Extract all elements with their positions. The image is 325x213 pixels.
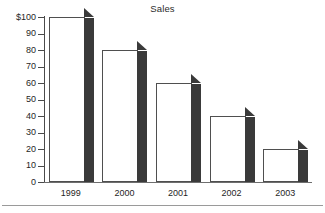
bottom-divider (2, 205, 323, 206)
bar-side-face (245, 117, 255, 182)
bar-front-face (210, 116, 246, 182)
y-tick-label: 40 (26, 111, 36, 122)
bar-top-bevel (191, 74, 201, 83)
y-tick-mark (38, 166, 44, 167)
y-tick-mark (38, 149, 44, 150)
chart-figure: Sales 0102030405060708090$100 1999200020… (0, 0, 325, 213)
y-tick-mark (38, 100, 44, 101)
bar-top-bevel (245, 107, 255, 116)
y-tick-label: 0 (31, 177, 36, 188)
x-tick-label: 1999 (43, 188, 99, 198)
y-tick-mark (38, 17, 44, 18)
bar-1999[interactable] (49, 8, 95, 182)
y-tick-mark (38, 133, 44, 134)
bar-top-bevel (137, 41, 147, 50)
x-tick-label: 2002 (204, 188, 260, 198)
y-tick-label: 20 (26, 144, 36, 155)
bar-top-bevel (298, 140, 308, 149)
x-tick-label: 2003 (257, 188, 313, 198)
bar-front-face (49, 17, 85, 182)
x-tick-label: 2001 (150, 188, 206, 198)
y-tick-mark (38, 34, 44, 35)
bar-side-face (298, 150, 308, 182)
y-tick-label: 10 (26, 160, 36, 171)
y-tick-label: 80 (26, 45, 36, 56)
y-tick-mark (38, 182, 44, 183)
y-axis-tick-labels: 0102030405060708090$100 (0, 0, 36, 213)
y-tick-label: 30 (26, 127, 36, 138)
y-tick-label: $100 (16, 12, 36, 23)
bar-side-face (137, 51, 147, 182)
y-tick-mark (38, 83, 44, 84)
y-tick-label: 90 (26, 28, 36, 39)
bar-2003[interactable] (263, 140, 309, 182)
bar-2002[interactable] (210, 107, 256, 182)
x-tick-label: 2000 (96, 188, 152, 198)
y-tick-mark (38, 67, 44, 68)
bar-side-face (191, 84, 201, 182)
y-tick-mark (38, 50, 44, 51)
bar-front-face (102, 50, 138, 182)
bar-top-bevel (84, 8, 94, 17)
bar-front-face (156, 83, 192, 182)
y-tick-mark (38, 116, 44, 117)
bar-2000[interactable] (102, 41, 148, 182)
x-axis-line (44, 182, 312, 183)
bar-front-face (263, 149, 299, 182)
bar-2001[interactable] (156, 74, 202, 182)
bar-side-face (84, 18, 94, 182)
y-tick-label: 70 (26, 61, 36, 72)
y-tick-label: 60 (26, 78, 36, 89)
y-tick-label: 50 (26, 94, 36, 105)
